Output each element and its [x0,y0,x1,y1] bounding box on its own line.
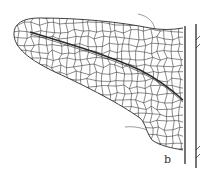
leaf-drawing [0,0,212,180]
pointer-line-bottom [125,127,147,130]
panel-label: b [164,153,171,166]
venation-network [10,8,196,159]
areole-cells [10,8,196,159]
botanical-illustration: b [0,0,212,180]
